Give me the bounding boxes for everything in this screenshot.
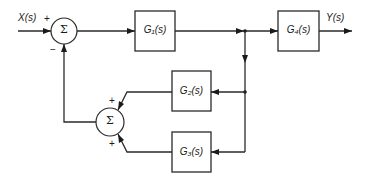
wire-g2-to-sum2: [118, 92, 172, 110]
block-g1-label: G₁(s): [135, 24, 175, 35]
input-signal-line: [18, 28, 51, 34]
arrow-head-icon: [211, 149, 219, 155]
block-g3-label: G₃(s): [172, 146, 211, 157]
arrow-head-icon: [118, 101, 124, 110]
sum1-sigma-symbol: Σ: [58, 23, 70, 36]
wire-to-g3: [211, 149, 245, 155]
arrow-head-icon: [211, 89, 219, 95]
arrow-head-icon: [43, 28, 51, 34]
wire-g1-to-g4: [175, 28, 278, 34]
arrow-head-icon: [118, 134, 124, 143]
output-signal-line: [319, 28, 352, 34]
block-g2-label: G₂(s): [172, 85, 211, 96]
feedback-line: [61, 44, 96, 122]
sum1-minus-sign: −: [50, 44, 56, 55]
arrow-head-icon: [127, 28, 135, 34]
sum2-bottom-plus-sign: +: [109, 138, 115, 149]
sum2-top-plus-sign: +: [109, 95, 115, 106]
arrow-head-icon: [242, 55, 248, 63]
wire-to-g2: [211, 89, 245, 95]
sum1-plus-sign: +: [44, 13, 50, 24]
arrow-head-icon: [344, 28, 352, 34]
sum2-sigma-symbol: Σ: [104, 114, 116, 127]
arrow-head-icon: [270, 28, 278, 34]
arrow-head-icon: [236, 28, 244, 34]
wire-sum1-to-g1: [77, 28, 135, 34]
wire-g3-to-sum2: [118, 134, 172, 152]
arrow-head-icon: [61, 44, 67, 52]
block-g4-label: G₄(s): [278, 24, 319, 35]
